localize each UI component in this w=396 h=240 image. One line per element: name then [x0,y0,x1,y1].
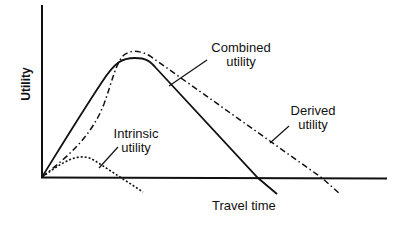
intrinsic-utility-label-line1: Intrinsic [107,127,165,141]
intrinsic-utility-curve [42,157,143,192]
combined-utility-label: Combined utility [200,41,282,69]
intrinsic-utility-label: Intrinsic utility [107,127,165,155]
intrinsic-utility-label-line2: utility [107,141,165,155]
y-axis-label: Utility [19,64,33,104]
combined-utility-label-line2: utility [200,55,282,69]
derived-utility-label: Derived utility [281,104,345,132]
combined-utility-label-line1: Combined [200,41,282,55]
combined-utility-curve [42,58,277,194]
derived-utility-label-line2: utility [281,118,345,132]
derived-utility-label-line1: Derived [281,104,345,118]
x-axis-label: Travel time [212,199,276,213]
x-axis [41,178,387,179]
